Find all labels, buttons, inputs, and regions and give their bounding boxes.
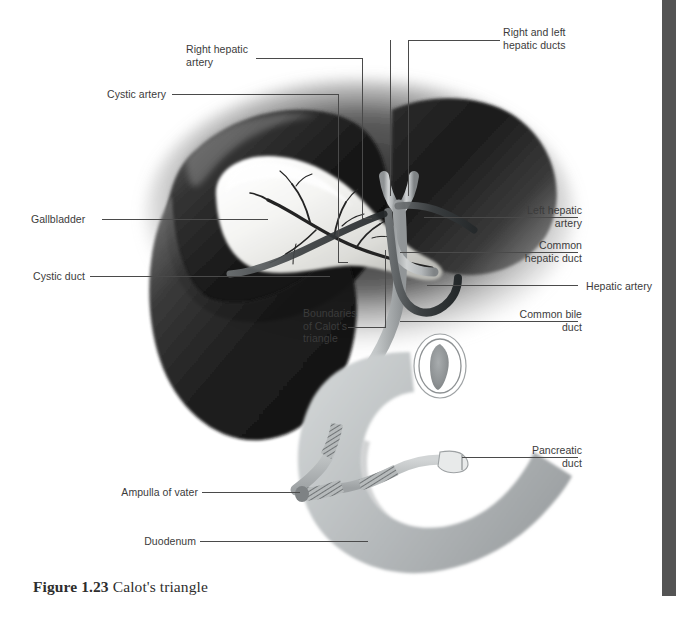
figure-title: Calot's triangle <box>113 578 208 595</box>
figure-caption: Figure 1.23 Calot's triangle <box>33 578 208 596</box>
figure-number: Figure 1.23 <box>33 578 109 595</box>
label-common-hepatic-duct: Common hepatic duct <box>504 239 582 264</box>
duodenum-cut-end <box>414 334 466 398</box>
label-boundaries-of-calots-triangle: Boundaries of Calot's triangle <box>303 307 365 345</box>
label-ampulla-of-vater: Ampulla of vater <box>110 486 198 499</box>
figure-canvas: Right hepatic artery Cystic artery Right… <box>0 0 679 636</box>
label-left-hepatic-artery: Left hepatic artery <box>516 204 582 229</box>
page-edge-bar <box>662 0 676 596</box>
label-duodenum: Duodenum <box>128 535 196 548</box>
label-hepatic-artery: Hepatic artery <box>586 280 672 293</box>
label-cystic-duct: Cystic duct <box>33 270 103 283</box>
pancreatic-duct-cut-tip <box>438 451 468 473</box>
label-cystic-artery: Cystic artery <box>107 88 177 101</box>
label-pancreatic-duct: Pancreatic duct <box>518 444 582 469</box>
label-right-hepatic-artery: Right hepatic artery <box>186 43 258 68</box>
label-common-bile-duct: Common bile duct <box>510 308 582 333</box>
label-gallbladder: Gallbladder <box>31 213 109 226</box>
label-right-and-left-hepatic-ducts: Right and left hepatic ducts <box>503 26 593 51</box>
